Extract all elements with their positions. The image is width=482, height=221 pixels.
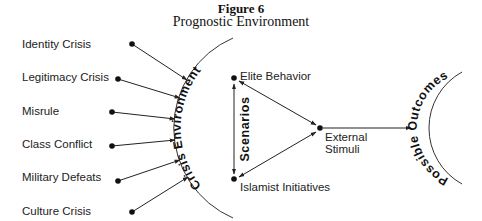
elite-behavior-label: Elite Behavior <box>240 70 311 82</box>
crisis-environment-label: Crisis Environment <box>170 63 204 193</box>
possible-outcomes-label: Possible Outcomes <box>406 68 451 189</box>
islamist-initiatives-label: Islamist Initiatives <box>240 181 330 193</box>
external-stimuli-label-2: Stimuli <box>325 143 360 155</box>
scenarios-label: Scenarios <box>238 96 252 161</box>
input-misrule: Misrule <box>22 105 59 117</box>
elite-behavior-node <box>231 75 237 81</box>
external-stimuli-label-1: External <box>325 131 367 143</box>
input-military-defeats: Military Defeats <box>22 171 101 183</box>
prognostic-diagram: Crisis Environment Identity Crisis Legit… <box>0 0 482 221</box>
input-class-conflict: Class Conflict <box>22 138 93 150</box>
external-stimuli-node <box>317 125 323 131</box>
input-legitimacy-crisis: Legitimacy Crisis <box>22 71 109 83</box>
input-identity-crisis: Identity Crisis <box>22 38 91 50</box>
input-dots <box>109 41 135 215</box>
input-culture-crisis: Culture Crisis <box>22 205 91 217</box>
islamist-initiatives-node <box>231 176 237 182</box>
